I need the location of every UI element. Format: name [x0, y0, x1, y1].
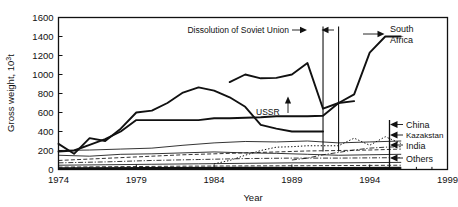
dissolution-label: Dissolution of Soviet Union — [187, 25, 289, 35]
series-line-others — [59, 141, 401, 151]
south-africa-arrow-icon — [378, 31, 385, 37]
south-africa-label-line1: South — [390, 24, 414, 34]
x-tick-label: 1984 — [204, 174, 225, 185]
ussr-arrow-up — [285, 97, 291, 104]
china-label: China — [406, 120, 430, 130]
x-tick-label: 1994 — [359, 174, 380, 185]
y-tick-label: 1400 — [32, 31, 53, 42]
y-axis-title: Gross weight, 103t — [5, 54, 16, 132]
x-tick-label: 1974 — [48, 174, 69, 185]
dissolution-arrow-right — [300, 27, 307, 33]
others-label: Others — [406, 154, 434, 164]
y-axis-title-unit: t — [5, 54, 16, 57]
series-line-south-africa — [59, 37, 401, 152]
y-tick-label: 1200 — [32, 50, 53, 61]
x-tick-label: 1989 — [281, 174, 302, 185]
x-tick-label: 1979 — [126, 174, 147, 185]
x-axis-tick-labels: 197419791984198919941999 — [48, 174, 458, 185]
y-axis-tick-labels: 02004006008001000120014001600 — [32, 12, 53, 175]
series-line-minor-3 — [59, 162, 401, 165]
series-line-minor-1 — [59, 152, 401, 156]
series-line-minor-4 — [59, 165, 401, 167]
callout-south-africa: South Africa — [363, 24, 414, 45]
dissolution-marker-lines — [323, 27, 339, 152]
y-axis-title-main: Gross weight, 10 — [5, 61, 16, 132]
callout-china: China — [390, 120, 430, 130]
ussr-label: USSR — [256, 107, 280, 117]
y-tick-label: 1600 — [32, 12, 53, 23]
annotation-dissolution: Dissolution of Soviet Union — [187, 25, 334, 35]
x-axis-title: Year — [243, 192, 262, 203]
chart-figure: 02004006008001000120014001600 1974197919… — [0, 0, 458, 207]
svg-text:Gross weight, 103t: Gross weight, 103t — [5, 54, 16, 132]
kazakstan-label: Kazakstan — [406, 131, 443, 140]
chart-svg: 02004006008001000120014001600 1974197919… — [0, 0, 458, 207]
series-line-russia — [230, 63, 354, 109]
callout-kazakstan: Kazakstan — [390, 131, 443, 140]
india-label: India — [406, 141, 426, 151]
y-tick-label: 200 — [38, 145, 54, 156]
annotation-ussr: USSR — [256, 97, 291, 118]
south-africa-label-line2: Africa — [390, 35, 413, 45]
y-tick-label: 800 — [38, 88, 54, 99]
y-tick-label: 600 — [38, 107, 54, 118]
series-layer — [59, 37, 401, 169]
x-tick-label: 1999 — [437, 174, 458, 185]
y-tick-label: 400 — [38, 126, 54, 137]
y-tick-label: 1000 — [32, 69, 53, 80]
